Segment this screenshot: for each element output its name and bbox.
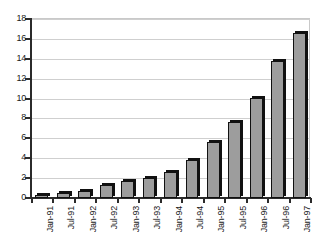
bar xyxy=(121,181,134,198)
x-tick-label: Jul-95 xyxy=(239,206,248,229)
y-tick-label: 16 xyxy=(4,34,26,43)
bar-slot xyxy=(293,19,306,198)
x-tick-label: Jul-92 xyxy=(110,206,119,229)
bar xyxy=(186,160,199,198)
x-tick-mark xyxy=(52,198,54,203)
bar-slot xyxy=(186,19,199,198)
bar xyxy=(271,61,284,198)
bar-chart: 024681012141618 Jan-91Jul-91Jan-92Jul-92… xyxy=(0,0,321,244)
bar-slot xyxy=(271,19,284,198)
y-tick-label: 4 xyxy=(4,153,26,162)
bars-layer xyxy=(31,19,310,198)
bar-slot xyxy=(35,19,48,198)
x-tick-label: Jul-93 xyxy=(153,206,162,229)
bar xyxy=(78,191,91,198)
x-tick-label: Jul-96 xyxy=(282,206,291,229)
x-tick-mark xyxy=(31,198,33,203)
x-tick-mark xyxy=(138,198,140,203)
x-tick-label: Jan-95 xyxy=(217,206,226,232)
x-tick-mark xyxy=(224,198,226,203)
bar-slot xyxy=(78,19,91,198)
x-tick-label: Jan-94 xyxy=(175,206,184,232)
bar xyxy=(35,195,48,198)
x-tick-mark xyxy=(117,198,119,203)
bar-slot xyxy=(143,19,156,198)
bar xyxy=(143,178,156,198)
x-tick-mark xyxy=(310,198,312,203)
bar-slot xyxy=(164,19,177,198)
x-tick-mark xyxy=(203,198,205,203)
y-tick-label: 12 xyxy=(4,74,26,83)
x-tick-mark xyxy=(160,198,162,203)
x-tick-label: Jul-94 xyxy=(196,206,205,229)
x-tick-label: Jan-96 xyxy=(260,206,269,232)
y-tick-label: 6 xyxy=(4,133,26,142)
y-tick-label: 10 xyxy=(4,94,26,103)
x-tick-label: Jul-91 xyxy=(67,206,76,229)
x-tick-label: Jan-92 xyxy=(89,206,98,232)
y-tick-label: 14 xyxy=(4,54,26,63)
bar xyxy=(228,122,241,198)
bar xyxy=(207,142,220,198)
y-tick-label: 0 xyxy=(4,193,26,202)
bar xyxy=(250,98,263,198)
bar-slot xyxy=(250,19,263,198)
bar-slot xyxy=(228,19,241,198)
bar xyxy=(293,33,306,198)
x-tick-mark xyxy=(74,198,76,203)
bar-slot xyxy=(100,19,113,198)
y-tick-label: 8 xyxy=(4,113,26,122)
x-tick-mark xyxy=(267,198,269,203)
x-tick-mark xyxy=(289,198,291,203)
x-tick-mark xyxy=(181,198,183,203)
bar-slot xyxy=(57,19,70,198)
bar xyxy=(100,185,113,198)
bar-slot xyxy=(207,19,220,198)
x-tick-label: Jan-97 xyxy=(303,206,312,232)
x-tick-label: Jan-93 xyxy=(132,206,141,232)
x-tick-mark xyxy=(246,198,248,203)
bar-slot xyxy=(121,19,134,198)
y-tick-label: 2 xyxy=(4,173,26,182)
x-tick-mark xyxy=(95,198,97,203)
x-tick-label: Jan-91 xyxy=(46,206,55,232)
y-tick-label: 18 xyxy=(4,14,26,23)
bar xyxy=(164,172,177,198)
bar xyxy=(57,193,70,198)
